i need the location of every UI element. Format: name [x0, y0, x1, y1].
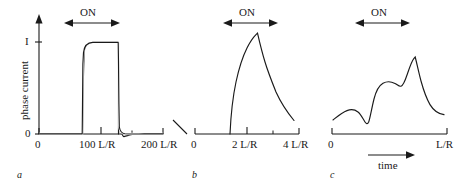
- panel-c-letter: c: [330, 170, 334, 180]
- panel-a-on-label: ON: [80, 7, 96, 18]
- panel-a-waveform-curve: [39, 42, 163, 134]
- panel-b-svg: [168, 0, 316, 190]
- panel-a-on-arrowhead-right-icon: [111, 19, 120, 27]
- panel-c-on-label: ON: [371, 7, 387, 18]
- panel-b-on-arrowhead-left-icon: [223, 19, 232, 27]
- panel-b-on-arrowhead-right-icon: [269, 19, 278, 27]
- panel-a-on-arrowhead-left-icon: [64, 19, 73, 27]
- panel-c-on-arrowhead-right-icon: [401, 19, 410, 27]
- panel-b-waveform: [230, 33, 294, 134]
- panel-c-xtick-label-end: L/R: [436, 139, 453, 150]
- panel-b: ON 0 2 L/R 4 L/R b: [168, 0, 316, 190]
- panel-a-waveform: [39, 42, 163, 136]
- panel-a: I 0 phase current ON 0 100 L/R 200 L/R a: [0, 0, 175, 190]
- panel-b-leader-segment: [173, 120, 187, 134]
- panel-b-xtick-label-4: 4 L/R: [283, 139, 308, 150]
- panel-c-waveform: [333, 57, 444, 124]
- panel-c-xtick-label-0: 0: [328, 139, 334, 150]
- panel-a-ytick-label-top: I: [25, 36, 29, 47]
- panel-a-xtick-label-100: 100 L/R: [79, 139, 115, 150]
- panel-c-on-arrowhead-left-icon: [355, 19, 364, 27]
- panel-b-letter: b: [192, 170, 197, 180]
- time-axis-label: time: [378, 160, 398, 171]
- panel-b-xtick-label-0: 0: [191, 139, 197, 150]
- panel-a-letter: a: [17, 170, 22, 180]
- panel-c: ON 0 L/R time c: [310, 0, 463, 190]
- panel-b-plot: [168, 0, 316, 190]
- panel-a-ytick-label-bottom: 0: [25, 128, 31, 139]
- panel-b-on-label: ON: [239, 7, 255, 18]
- panel-a-waveform-mask: [39, 42, 163, 134]
- time-arrowhead-icon: [406, 151, 415, 159]
- y-axis-arrowhead-icon: [35, 14, 42, 24]
- panel-a-xtick-label-0: 0: [35, 139, 41, 150]
- panel-b-xtick-label-2: 2 L/R: [232, 139, 257, 150]
- figure-phase-current-waveforms: I 0 phase current ON 0 100 L/R 200 L/R a: [0, 0, 463, 190]
- y-axis-label: phase current: [19, 61, 30, 120]
